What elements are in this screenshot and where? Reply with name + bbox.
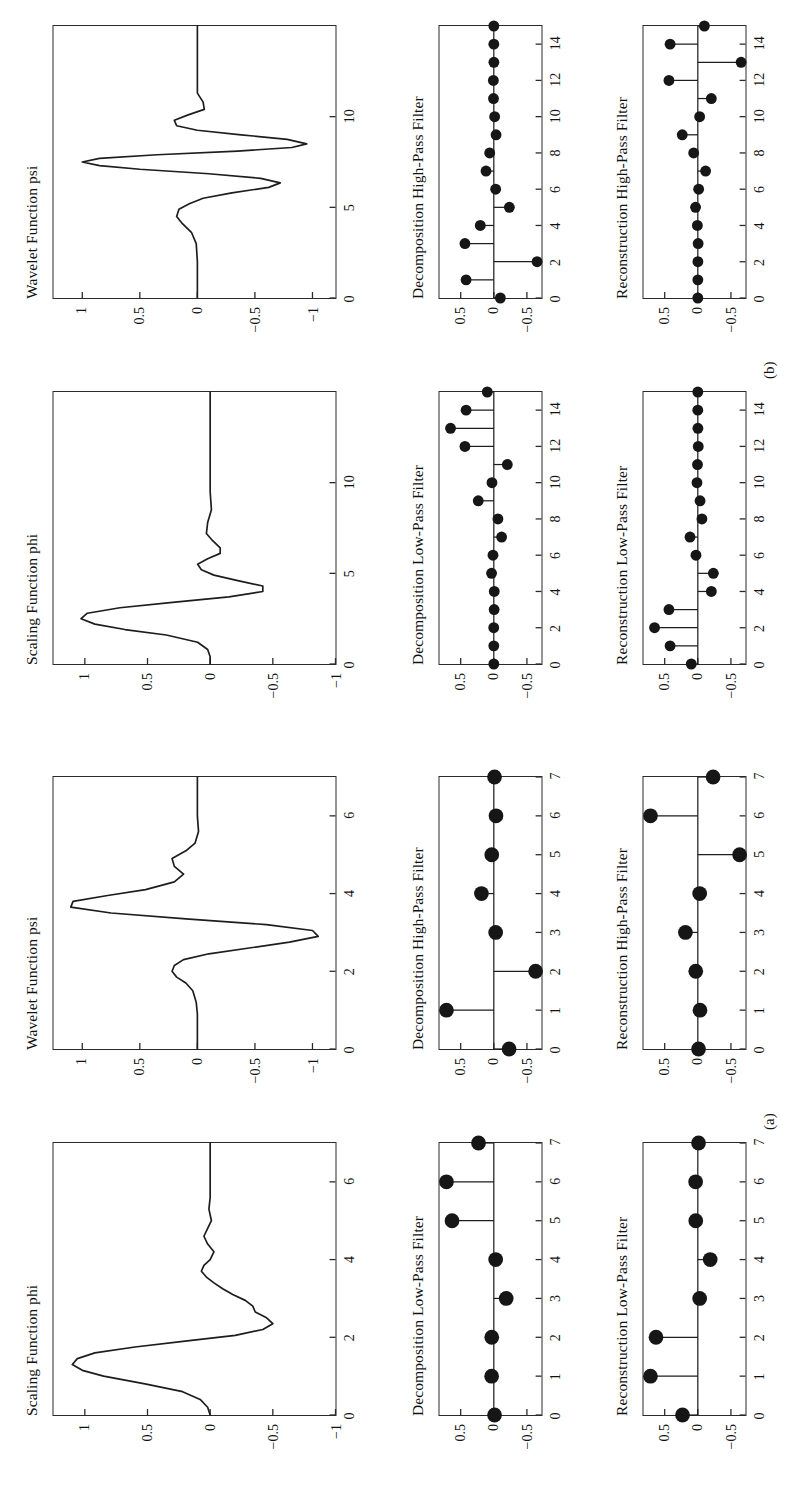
subplot-b-scaling-title: Scaling Function phi	[22, 534, 40, 665]
subplot-a-dec-high-xtick: 1	[547, 1007, 563, 1014]
subplot-b-dec-low-xtick: 12	[547, 439, 563, 453]
subplot-a-wavelet-xtick: 2	[341, 968, 357, 975]
subplot-b-rec-high-marker	[705, 93, 716, 104]
subplot-b-rec-high-marker	[692, 238, 703, 249]
subplot-a-wavelet: Wavelet Function psi0246−1−0.500.51	[22, 770, 362, 1100]
subplot-b-dec-high-marker	[490, 184, 501, 195]
subplot-a-rec-high-xtick: 1	[751, 1007, 767, 1014]
subplot-a-dec-high-ytick: −0.5	[519, 1058, 535, 1100]
subplot-b-rec-high-xtick: 8	[751, 149, 767, 156]
subplot-a-wavelet-ytick: 0.5	[131, 1058, 147, 1100]
subplot-a-dec-low-xtick: 6	[547, 1178, 563, 1185]
subplot-a-dec-low-xtick: 3	[547, 1295, 563, 1302]
subplot-a-scaling-axes	[52, 1142, 336, 1416]
subplot-a-rec-high-marker	[691, 1042, 706, 1057]
subplot-b-rec-high-marker	[691, 220, 702, 231]
subplot-b-dec-high-axes	[438, 25, 542, 299]
subplot-a-rec-low-marker	[675, 1408, 690, 1423]
subplot-a-dec-low-title: Decomposition Low-Pass Filter	[408, 1216, 426, 1416]
subplot-b-dec-high-marker	[487, 75, 498, 86]
subplot-b-dec-low-marker	[486, 568, 497, 579]
subplot-b-rec-low-marker	[694, 495, 705, 506]
subplot-b-dec-high-xtick: 10	[547, 109, 563, 123]
subplot-a-dec-low-marker	[444, 1213, 459, 1228]
subplot-b-dec-low: Decomposition Low-Pass Filter02468101214…	[408, 385, 568, 715]
subplot-a-dec-high-marker	[484, 847, 499, 862]
subplot-b-rec-high-ytick: −0.5	[723, 307, 739, 349]
subplot-a-rec-high-title: Reconstruction High-Pass Filter	[612, 848, 630, 1050]
subplot-a-dec-low-xtick: 5	[547, 1217, 563, 1224]
subplot-b-rec-high-marker	[698, 21, 709, 32]
subplot-a-dec-low-ytick: −0.5	[519, 1424, 535, 1466]
subplot-b-dec-low-marker	[488, 659, 499, 670]
subplot-a-rec-high-xtick: 2	[751, 968, 767, 975]
subplot-b-wavelet-ytick: −0.5	[247, 307, 263, 349]
subplot-b-dec-high-marker	[488, 57, 499, 68]
subplot-a-dec-high-xtick: 6	[547, 812, 563, 819]
subplot-a-scaling-ytick: −1	[328, 1424, 344, 1466]
subplot-b-rec-low-marker	[692, 387, 703, 398]
subplot-b-dec-low-title: Decomposition Low-Pass Filter	[408, 465, 426, 665]
subplot-a-dec-high-xtick: 5	[547, 851, 563, 858]
subplot-a-scaling-ytick: 0.5	[139, 1424, 155, 1466]
figure-canvas: Scaling Function phi0246−1−0.500.51 Wave…	[0, 0, 791, 1502]
subplot-b-dec-high-xtick: 12	[547, 73, 563, 87]
subplot-a-scaling-xtick: 6	[341, 1178, 357, 1185]
subplot-b-dec-low-xtick: 6	[547, 552, 563, 559]
subplot-b-dec-low-axes	[438, 391, 542, 665]
subplot-a-wavelet-title: Wavelet Function psi	[22, 917, 40, 1050]
subplot-b-rec-low-marker	[685, 659, 696, 670]
subplot-b-dec-high-marker	[488, 39, 499, 50]
subplot-b-rec-low-xtick: 10	[751, 475, 767, 489]
subplot-b-scaling-axes	[52, 391, 336, 665]
subplot-b-scaling: Scaling Function phi0510−1−0.500.51	[22, 385, 362, 715]
subplot-b-wavelet-ytick: −1	[305, 307, 321, 349]
subplot-b-dec-low-ytick: 0.5	[452, 673, 468, 715]
subplot-b-dec-high-xtick: 0	[547, 296, 563, 303]
subplot-b-dec-high-marker	[484, 147, 495, 158]
subplot-b-dec-low-marker	[472, 495, 483, 506]
subplot-b-dec-low-marker	[496, 532, 507, 543]
subplot-a-rec-high-axes	[642, 776, 746, 1050]
subplot-b-dec-low-xtick: 4	[547, 588, 563, 595]
subplot-a-dec-low: Decomposition Low-Pass Filter01234567−0.…	[408, 1136, 568, 1466]
subplot-b-dec-low-marker	[488, 640, 499, 651]
subplot-b-rec-low-marker	[692, 405, 703, 416]
subplot-b-rec-high-marker	[700, 166, 711, 177]
subplot-b-wavelet-ytick: 0	[189, 307, 205, 349]
subplot-a-rec-low-xtick: 7	[751, 1139, 767, 1146]
subplot-a-dec-low-xtick: 1	[547, 1373, 563, 1380]
subplot-a-rec-low-marker	[702, 1252, 717, 1267]
subplot-b-wavelet-xtick: 0	[341, 296, 357, 303]
subplot-b-dec-high-marker	[490, 129, 501, 140]
subplot-b-rec-low-marker	[692, 423, 703, 434]
subplot-a-scaling-ytick: −0.5	[265, 1424, 281, 1466]
subplot-b-dec-high-ytick: 0	[485, 307, 501, 349]
subplot-b-dec-high: Decomposition High-Pass Filter0246810121…	[408, 19, 568, 349]
subplot-a-wavelet-ytick: 1	[73, 1058, 89, 1100]
subplot-a-dec-high: Decomposition High-Pass Filter01234567−0…	[408, 770, 568, 1100]
subplot-b-dec-low-xtick: 10	[547, 475, 563, 489]
subplot-b-dec-high-xtick: 6	[547, 186, 563, 193]
subplot-b-rec-high-xtick: 2	[751, 259, 767, 266]
subplot-a-rec-high-xtick: 5	[751, 851, 767, 858]
subplot-b-dec-low-marker	[459, 441, 470, 452]
subplot-a-rec-low-title: Reconstruction Low-Pass Filter	[612, 1217, 630, 1416]
subplot-b-dec-low-xtick: 0	[547, 662, 563, 669]
subplot-a-dec-low-xtick: 0	[547, 1413, 563, 1420]
subplot-b-rec-high-title: Reconstruction High-Pass Filter	[612, 97, 630, 299]
subplot-b-rec-low-xtick: 8	[751, 515, 767, 522]
subplot-a-dec-high-xtick: 3	[547, 929, 563, 936]
panel-b-label: (b)	[760, 362, 777, 380]
subplot-a-wavelet-xtick: 4	[341, 890, 357, 897]
subplot-b-rec-low-axes	[642, 391, 746, 665]
subplot-a-rec-low-xtick: 3	[751, 1295, 767, 1302]
subplot-a-rec-high-marker	[692, 1003, 707, 1018]
subplot-b-rec-low-marker	[705, 586, 716, 597]
subplot-a-rec-low-xtick: 6	[751, 1178, 767, 1185]
subplot-a-dec-low-axes	[438, 1142, 542, 1416]
subplot-a-wavelet-ytick: −1	[305, 1058, 321, 1100]
subplot-b-dec-high-xtick: 2	[547, 259, 563, 266]
subplot-a-rec-low-xtick: 1	[751, 1373, 767, 1380]
subplot-b-rec-low: Reconstruction Low-Pass Filter0246810121…	[612, 385, 772, 715]
